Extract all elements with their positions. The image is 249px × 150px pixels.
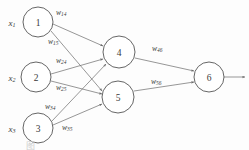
weight-label-w46: w46: [152, 44, 163, 54]
weight-label-w35: w35: [62, 123, 73, 133]
input-label-x1: x1: [8, 18, 16, 28]
node-4-label: 4: [117, 48, 122, 58]
node-1-label: 1: [36, 18, 41, 28]
edge-3-4: [52, 64, 106, 121]
edge-5-6: [134, 82, 194, 91]
weight-label-w34: w34: [45, 102, 56, 112]
figure-canvas: 1 2 3 4 5 6 x1 x2 x3 w14: [0, 0, 249, 150]
input-labels-group: x1 x2 x3: [8, 18, 16, 134]
weight-label-w24: w24: [56, 56, 67, 66]
node-6-label: 6: [207, 73, 212, 83]
figure-caption-strip: 图: [0, 137, 249, 150]
node-3-label: 3: [36, 124, 41, 134]
weight-label-w56: w56: [151, 77, 162, 87]
edge-3-5: [53, 104, 102, 125]
edge-4-6: [135, 58, 194, 71]
node-5-label: 5: [116, 93, 121, 103]
weight-label-w14: w14: [56, 8, 67, 18]
neural-network-diagram: 1 2 3 4 5 6 x1 x2 x3 w14: [0, 0, 249, 150]
node-2-label: 2: [34, 73, 39, 83]
nodes-group: 1 2 3 4 5 6: [21, 7, 224, 143]
figure-caption: 图: [26, 139, 35, 150]
input-label-x3: x3: [8, 124, 16, 134]
weight-labels-group: w14 w15 w24 w25 w34 w35 w46 w56: [45, 8, 163, 133]
input-label-x2: x2: [8, 73, 16, 83]
